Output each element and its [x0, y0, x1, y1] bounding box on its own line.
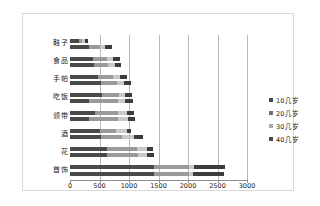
chart-frame: 鞋子食品手帕吃饭领带酒花首饰 050010001500200025003000 …	[22, 13, 294, 191]
legend-swatch	[269, 124, 273, 128]
bar-segment	[147, 153, 153, 157]
x-tick-label: 2500	[209, 182, 226, 190]
bar	[70, 165, 225, 169]
bar-segment	[98, 75, 113, 79]
bar-segment	[137, 147, 147, 151]
bar-segment	[70, 129, 100, 133]
category-label: 食品	[38, 57, 68, 65]
bar-segment	[70, 135, 101, 139]
bar-segment	[70, 147, 107, 151]
bar-segment	[102, 93, 119, 97]
bar-segment	[70, 172, 154, 176]
gridline	[159, 35, 160, 180]
bar	[70, 81, 131, 85]
bar-segment	[70, 81, 101, 85]
bar-segment	[193, 172, 224, 176]
bar-segment	[128, 117, 135, 121]
bar-segment	[125, 93, 131, 97]
bar-segment	[127, 111, 134, 115]
legend-swatch	[269, 98, 273, 102]
bar	[70, 39, 88, 43]
category-label: 吃饭	[38, 93, 68, 101]
bar	[70, 45, 112, 49]
bar-segment	[107, 147, 137, 151]
bar-segment	[107, 153, 138, 157]
legend-swatch	[269, 111, 273, 115]
legend-item[interactable]: 40几岁	[269, 133, 315, 144]
bar	[70, 147, 153, 151]
bar-segment	[154, 165, 189, 169]
bar-segment	[95, 111, 119, 115]
gridline	[218, 35, 219, 180]
category-label: 酒	[38, 130, 68, 138]
bar-segment	[118, 111, 126, 115]
bar-segment	[70, 93, 102, 97]
legend-label: 10几岁	[276, 95, 299, 105]
bar-segment	[101, 81, 118, 85]
plot-area	[70, 35, 247, 180]
bar-segment	[93, 57, 107, 61]
legend-swatch	[269, 137, 273, 141]
bar	[70, 63, 121, 67]
bar-segment	[113, 57, 120, 61]
bar-segment	[134, 135, 143, 139]
category-label: 花	[38, 148, 68, 156]
bar-segment	[118, 99, 126, 103]
bar-segment	[105, 45, 111, 49]
bar-segment	[115, 63, 121, 67]
bar-segment	[125, 99, 132, 103]
bar-segment	[70, 99, 89, 103]
bar-segment	[89, 117, 118, 121]
x-axis-tick-labels: 050010001500200025003000	[70, 182, 247, 194]
bar-segment	[194, 165, 225, 169]
bar-segment	[70, 165, 154, 169]
x-tick-label: 2000	[180, 182, 197, 190]
bar	[70, 129, 131, 133]
x-tick-label: 1500	[150, 182, 167, 190]
bar	[70, 117, 135, 121]
x-tick-label: 500	[93, 182, 105, 190]
category-label: 首饰	[38, 166, 68, 174]
bar	[70, 93, 132, 97]
category-label: 领带	[38, 112, 68, 120]
bar-segment	[70, 39, 79, 43]
bar-segment	[70, 75, 98, 79]
bar-segment	[154, 172, 189, 176]
gridline	[188, 35, 189, 180]
chart-legend: 10几岁20几岁30几岁40几岁	[269, 94, 315, 146]
bar-segment	[70, 57, 93, 61]
bar-segment	[147, 147, 153, 151]
category-label: 鞋子	[38, 39, 68, 47]
bar-segment	[138, 153, 147, 157]
bar-segment	[89, 99, 117, 103]
bar	[70, 111, 134, 115]
bar-segment	[85, 39, 89, 43]
bar	[70, 153, 154, 157]
gridline	[247, 35, 248, 180]
bar-segment	[70, 63, 94, 67]
legend-item[interactable]: 30几岁	[269, 120, 315, 131]
category-axis-labels: 鞋子食品手帕吃饭领带酒花首饰	[32, 35, 68, 180]
bar-segment	[116, 129, 127, 133]
bar-segment	[70, 153, 107, 157]
x-tick-label: 3000	[239, 182, 256, 190]
bar-segment	[100, 129, 117, 133]
legend-item[interactable]: 20几岁	[269, 107, 315, 118]
bar-segment	[94, 63, 108, 67]
legend-label: 20几岁	[276, 108, 299, 118]
bar-segment	[117, 81, 124, 85]
bar-segment	[89, 45, 100, 49]
bar	[70, 75, 127, 79]
bar-segment	[108, 63, 115, 67]
bar-segment	[124, 81, 130, 85]
legend-label: 40几岁	[276, 134, 299, 144]
legend-label: 30几岁	[276, 121, 299, 131]
bar-segment	[70, 111, 95, 115]
x-tick-label: 0	[68, 182, 72, 190]
legend-item[interactable]: 10几岁	[269, 94, 315, 105]
category-label: 手帕	[38, 75, 68, 83]
bar	[70, 57, 120, 61]
bar-segment	[70, 45, 89, 49]
x-tick-label: 1000	[121, 182, 138, 190]
bar	[70, 135, 143, 139]
